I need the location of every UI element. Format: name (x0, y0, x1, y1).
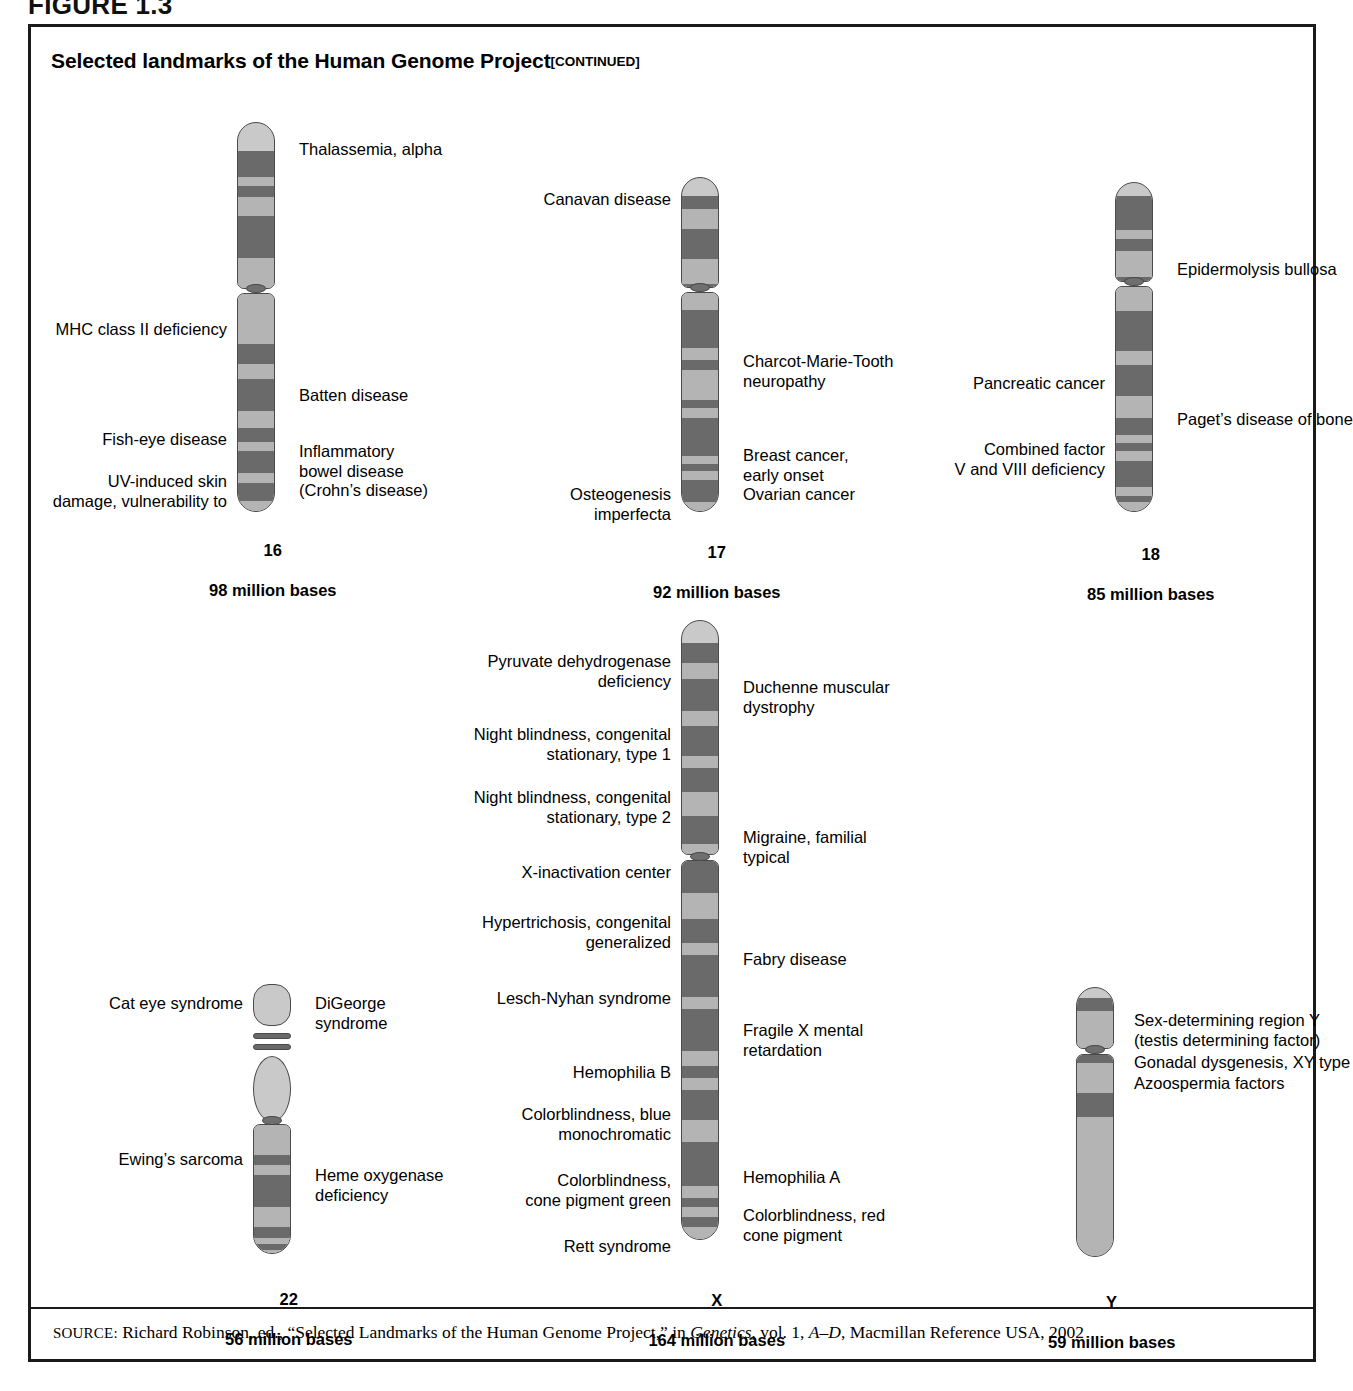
chromosome-X-ideogram (681, 620, 725, 1240)
chromosome-17-label-left-0: Canavan disease (331, 190, 671, 210)
chromosome-22-label-left-0: Cat eye syndrome (0, 994, 243, 1014)
chromosome-17-ideogram (681, 177, 725, 512)
chromosome-16-ideogram (237, 122, 281, 512)
chromosome-X-label-right-4: Hemophilia A (743, 1168, 840, 1188)
chromosome-17-label-left-1: Osteogenesis imperfecta (331, 485, 671, 524)
chromosome-16-label-left-1: Fish-eye disease (0, 430, 227, 450)
chromosome-arm-p (237, 122, 275, 289)
source-text-2: , vol. 1, (751, 1322, 808, 1342)
chromosome-arm-p (253, 1056, 291, 1122)
centromere (1124, 277, 1144, 286)
continued-badge: [CONTINUED] (551, 54, 640, 69)
source-label: SOURCE: (53, 1325, 118, 1341)
chromosome-arm-q (237, 293, 275, 512)
chromosome-arm-p (681, 177, 719, 288)
source-italic-1: Genetics (690, 1322, 751, 1342)
chromosome-18-caption: 18 85 million bases (995, 524, 1279, 624)
chromosome-18-label-left-0: Pancreatic cancer (805, 374, 1105, 394)
chromosome-18-label-right-1: Paget’s disease of bone (1177, 410, 1353, 430)
chromosome-22-label-left-1: Ewing’s sarcoma (0, 1150, 243, 1170)
source-italic-2: A–D (809, 1322, 841, 1342)
stalk-band-2 (253, 1044, 291, 1050)
chromosome-X-label-left-2: Night blindness, congenital stationary, … (311, 788, 671, 827)
chromosome-arm-q (681, 860, 719, 1240)
chromosome-arm-q (1076, 1054, 1114, 1257)
chromosome-18-size: 85 million bases (1087, 585, 1214, 603)
chromosome-X-label-left-1: Night blindness, congenital stationary, … (311, 725, 671, 764)
chromosome-16-label-left-2: UV-induced skin damage, vulnerability to (0, 472, 227, 511)
chromosome-18-label-left-1: Combined factor V and VIII deficiency (805, 440, 1105, 479)
chromosome-X-caption: X 164 million bases (561, 1270, 845, 1370)
centromere (246, 284, 266, 293)
chromosome-arm-p (1076, 987, 1114, 1049)
chromosome-X-label-left-6: Hemophilia B (311, 1063, 671, 1083)
chromosome-22-caption: 22 56 million bases (133, 1269, 417, 1369)
chromosome-16-label-right-1: Batten disease (299, 386, 408, 406)
chromosome-X-label-left-8: Colorblindness, cone pigment green (311, 1171, 671, 1210)
chromosome-Y-label-right-0: Sex-determining region Y (testis determi… (1134, 1011, 1320, 1050)
chromosome-16-caption: 16 98 million bases (117, 520, 401, 620)
stalk-band-1 (253, 1033, 291, 1039)
chromosome-arm-p (681, 620, 719, 855)
source-text-3: , Macmillan Reference USA, 2002 (841, 1322, 1084, 1342)
chromosome-X-label-left-7: Colorblindness, blue monochromatic (311, 1105, 671, 1144)
chromosome-Y-label-right-1: Gonadal dysgenesis, XY type (1134, 1053, 1350, 1073)
chromosome-X-label-left-0: Pyruvate dehydrogenase deficiency (311, 652, 671, 691)
chromosome-16-label-right-0: Thalassemia, alpha (299, 140, 442, 160)
chromosome-18-label-right-0: Epidermolysis bullosa (1177, 260, 1337, 280)
figure-frame: Selected landmarks of the Human Genome P… (28, 24, 1316, 1362)
chromosome-17-caption: 17 92 million bases (561, 522, 845, 622)
chromosome-Y-label-right-2: Azoospermia factors (1134, 1074, 1284, 1094)
panel-title-text: Selected landmarks of the Human Genome P… (51, 49, 551, 72)
page-title: Selected landmarks of the Human Genome P… (51, 49, 640, 73)
chromosome-X-label-right-3: Fragile X mental retardation (743, 1021, 863, 1060)
chromosome-18-name: 18 (1142, 545, 1160, 563)
source-divider (31, 1307, 1313, 1309)
source-text-1: Richard Robinson, ed., “Selected Landmar… (122, 1322, 690, 1342)
chromosome-22-name: 22 (280, 1290, 298, 1308)
chromosome-X-label-left-5: Lesch-Nyhan syndrome (311, 989, 671, 1009)
chromosome-17-name: 17 (708, 543, 726, 561)
source-note: SOURCE: Richard Robinson, ed., “Selected… (53, 1322, 1303, 1343)
chromosome-arm-q (1115, 286, 1153, 512)
chromosome-arm-q (253, 1124, 291, 1254)
chromosome-X-label-left-9: Rett syndrome (311, 1237, 671, 1257)
chromosome-X-label-right-5: Colorblindness, red cone pigment (743, 1206, 885, 1245)
chromosome-X-label-right-0: Duchenne muscular dystrophy (743, 678, 890, 717)
centromere (1085, 1045, 1105, 1054)
centromere (690, 283, 710, 292)
chromosome-Y-ideogram (1076, 987, 1120, 1257)
chromosome-arm-q (681, 292, 719, 512)
chromosome-17-size: 92 million bases (653, 583, 780, 601)
chromosome-18-ideogram (1115, 182, 1159, 512)
chromosome-16-size: 98 million bases (209, 581, 336, 599)
figure-number: FIGURE 1.3 (28, 0, 173, 21)
chromosome-X-label-left-4: Hypertrichosis, congenital generalized (311, 913, 671, 952)
chromosome-X-label-right-2: Fabry disease (743, 950, 847, 970)
chromosome-X-label-left-3: X-inactivation center (311, 863, 671, 883)
chromosome-22-ideogram (253, 984, 297, 1254)
chromosome-arm-p (1115, 182, 1153, 282)
chromosome-satellite (253, 984, 291, 1026)
chromosome-X-label-right-1: Migraine, familial typical (743, 828, 867, 867)
chromosome-16-name: 16 (264, 541, 282, 559)
chromosome-16-label-left-0: MHC class II deficiency (0, 320, 227, 340)
